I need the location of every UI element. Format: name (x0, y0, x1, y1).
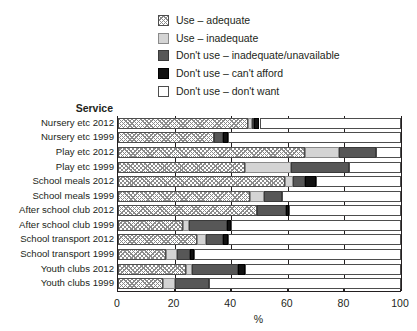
bar-segment (189, 220, 227, 231)
gridline (401, 116, 402, 291)
x-axis-tick-label: 40 (224, 297, 236, 309)
bar-row: School meals 2012 (118, 176, 401, 187)
bar-segment (245, 162, 290, 173)
y-axis-tick-label: School meals 2012 (32, 175, 114, 187)
legend-item-dontuse-inadequate: Don't use – inadequate/unavailable (158, 47, 408, 65)
bar-segment (289, 205, 401, 216)
bar-segment (118, 234, 197, 245)
legend-item-dontuse-dont-want: Don't use – don't want (158, 82, 408, 100)
bar-segment (166, 249, 177, 260)
bar-segment (197, 234, 205, 245)
legend-swatch-darkgray-icon (158, 50, 169, 61)
bar-segment (231, 220, 401, 231)
y-axis-tick-label: School transport 2012 (20, 233, 114, 245)
bar-segment (264, 191, 282, 202)
bar-row: Youth clubs 2012 (118, 264, 401, 275)
legend-swatch-white-icon (158, 86, 169, 97)
y-axis-tick-label: School meals 1999 (32, 190, 114, 202)
bar-segment (223, 234, 229, 245)
bar-segment (228, 234, 401, 245)
bar-segment (214, 132, 222, 143)
bar-row: School transport 2012 (118, 234, 401, 245)
y-axis-tick-label: Nursery etc 1999 (41, 131, 114, 143)
bar-segment (118, 264, 186, 275)
bar-segment (118, 278, 163, 289)
legend-item-dontuse-cant-afford: Don't use – can't afford (158, 65, 408, 83)
bar-segment (250, 191, 264, 202)
legend-item-use-adequate: Use – adequate (158, 12, 408, 30)
bar-segment (257, 205, 287, 216)
bar-segment (252, 118, 254, 129)
bar-segment (177, 249, 190, 260)
bar-segment (254, 118, 260, 129)
bar-row: Nursery etc 1999 (118, 132, 401, 143)
x-axis-tick-label: 100 (391, 297, 409, 309)
bar-segment (118, 118, 248, 129)
legend-label: Don't use – inadequate/unavailable (176, 50, 340, 61)
y-axis-tick-label: Play etc 1999 (56, 161, 114, 173)
x-axis-title: % (117, 313, 400, 325)
y-axis-tick-label: Nursery etc 2012 (41, 117, 114, 129)
bar-segment (285, 176, 293, 187)
bar-segment (248, 118, 252, 129)
legend-swatch-black-icon (158, 68, 169, 79)
y-axis-tick-label: Youth clubs 2012 (41, 263, 114, 275)
bar-segment (293, 176, 304, 187)
bar-segment (223, 132, 229, 143)
legend-label: Use – adequate (176, 15, 250, 26)
bar-segment (118, 176, 285, 187)
bar-row: After school club 1999 (118, 220, 401, 231)
bar-segment (118, 147, 305, 158)
bar-segment (316, 176, 401, 187)
bar-segment (305, 176, 316, 187)
bar-segment (118, 191, 250, 202)
bar-row: School meals 1999 (118, 191, 401, 202)
legend-item-use-inadequate: Use – inadequate (158, 30, 408, 48)
bar-segment (118, 205, 257, 216)
bar-row: After school club 2012 (118, 205, 401, 216)
plot-area: Nursery etc 2012Nursery etc 1999Play etc… (117, 116, 401, 291)
x-axis-tick-label: 20 (168, 297, 180, 309)
y-axis-title: Service (0, 102, 113, 114)
bar-segment (305, 147, 339, 158)
bar-segment (118, 162, 245, 173)
bar-segment (206, 234, 223, 245)
bar-segment (175, 278, 209, 289)
bar-segment (282, 191, 401, 202)
bar-segment (228, 132, 401, 143)
bar-segment (183, 220, 189, 231)
x-axis: 020406080100 (117, 291, 400, 292)
bar-segment (163, 278, 174, 289)
bar-segment (238, 264, 245, 275)
y-axis-tick-label: School transport 1999 (20, 248, 114, 260)
x-axis-tick-label: 0 (114, 297, 120, 309)
bar-row: Nursery etc 2012 (118, 118, 401, 129)
y-axis-tick-label: Play etc 2012 (56, 146, 114, 158)
bar-row: School transport 1999 (118, 249, 401, 260)
y-axis-tick-label: After school club 2012 (19, 204, 114, 216)
bar-segment (376, 147, 401, 158)
bar-segment (118, 132, 214, 143)
bar-segment (260, 118, 402, 129)
x-axis-tick-label: 60 (281, 297, 293, 309)
bar-segment (227, 220, 231, 231)
bar-row: Youth clubs 1999 (118, 278, 401, 289)
x-axis-tick-label: 80 (338, 297, 350, 309)
bar-row: Play etc 1999 (118, 162, 401, 173)
chart-container: Use – adequate Use – inadequate Don't us… (0, 0, 417, 331)
bar-segment (349, 162, 401, 173)
bar-segment (186, 264, 192, 275)
bar-segment (245, 264, 401, 275)
legend-swatch-lightgray-icon (158, 33, 169, 44)
legend-swatch-hatch-icon (158, 15, 169, 26)
bar-segment (339, 147, 376, 158)
bar-segment (194, 249, 401, 260)
bar-series-group: Nursery etc 2012Nursery etc 1999Play etc… (118, 116, 401, 291)
bar-segment (118, 220, 183, 231)
bar-row: Play etc 2012 (118, 147, 401, 158)
legend-label: Don't use – can't afford (176, 68, 283, 79)
bar-segment (291, 162, 349, 173)
bar-segment (209, 278, 401, 289)
y-axis-tick-label: Youth clubs 1999 (41, 277, 114, 289)
bar-segment (118, 249, 166, 260)
